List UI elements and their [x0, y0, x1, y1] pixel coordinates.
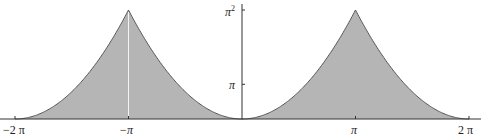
y-tick-label-pi-squared: π2 [225, 4, 235, 19]
y-tick-label-pi: π [229, 78, 236, 92]
chart-plot: −2 π −π π 2 π π π2 [0, 0, 481, 138]
y-tick-label-pi-squared-exponent: 2 [231, 4, 235, 13]
x-tick-label-neg-2pi: −2 π [3, 123, 25, 137]
x-tick-label-neg-pi: −π [119, 123, 134, 137]
x-tick-label-2pi: 2 π [458, 123, 473, 137]
x-tick-label-pi: π [351, 123, 358, 137]
